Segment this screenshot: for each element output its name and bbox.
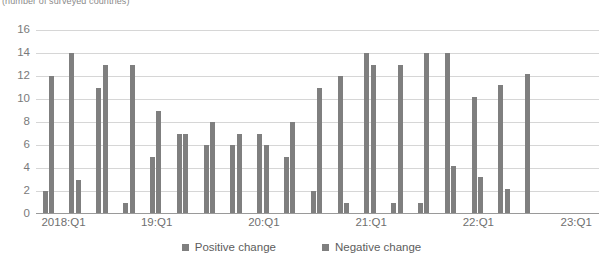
bar-positive-change [311, 191, 316, 214]
bar-negative-change [398, 65, 403, 215]
bar-positive-change [284, 157, 289, 215]
x-axis-tick-label: 22:Q1 [463, 216, 494, 228]
bar-positive-change [364, 53, 369, 214]
bar-negative-change [424, 53, 429, 214]
y-axis-tick-label: 0 [0, 208, 30, 220]
chart-root: (number of surveyed countries) 024681012… [0, 0, 603, 267]
bar-negative-change [183, 134, 188, 215]
legend-item-negative[interactable]: Negative change [322, 241, 421, 253]
bar-negative-change [290, 122, 295, 214]
bar-negative-change [156, 111, 161, 215]
bar-negative-change [451, 166, 456, 214]
bar-positive-change [525, 74, 530, 214]
bar-negative-change [130, 65, 135, 215]
chart-legend: Positive changeNegative change [0, 241, 603, 253]
legend-label: Positive change [195, 241, 276, 253]
bar-positive-change [177, 134, 182, 215]
legend-label: Negative change [335, 241, 421, 253]
bar-series-container [36, 30, 599, 214]
x-axis-tick-label: 19:Q1 [141, 216, 172, 228]
bar-positive-change [150, 157, 155, 215]
y-axis-tick-label: 14 [0, 47, 30, 59]
y-axis-labels: 0246810121416 [0, 30, 30, 214]
bar-negative-change [210, 122, 215, 214]
bar-positive-change [498, 85, 503, 214]
bar-negative-change [49, 76, 54, 214]
bar-positive-change [69, 53, 74, 214]
bar-positive-change [204, 145, 209, 214]
bar-positive-change [230, 145, 235, 214]
chart-subtitle: (number of surveyed countries) [2, 0, 130, 6]
y-axis-tick-label: 16 [0, 24, 30, 36]
x-axis-labels: 2018:Q119:Q120:Q121:Q122:Q123:Q1 [36, 216, 599, 232]
bar-negative-change [264, 145, 269, 214]
bar-negative-change [237, 134, 242, 215]
legend-swatch-icon [182, 244, 189, 251]
x-axis-tick-label: 21:Q1 [355, 216, 386, 228]
legend-swatch-icon [322, 244, 329, 251]
y-axis-tick-label: 4 [0, 162, 30, 174]
bar-negative-change [76, 180, 81, 215]
y-axis-tick-label: 8 [0, 116, 30, 128]
x-axis-tick-label: 23:Q1 [561, 216, 592, 228]
bar-negative-change [103, 65, 108, 215]
bar-positive-change [43, 191, 48, 214]
bar-positive-change [96, 88, 101, 215]
x-axis-tick-label: 20:Q1 [248, 216, 279, 228]
bar-negative-change [371, 65, 376, 215]
x-axis-line [36, 213, 599, 214]
bar-positive-change [257, 134, 262, 215]
bar-positive-change [472, 97, 477, 214]
bar-positive-change [338, 76, 343, 214]
y-axis-tick-label: 10 [0, 93, 30, 105]
y-axis-tick-label: 12 [0, 70, 30, 82]
plot-area [36, 30, 599, 214]
y-axis-tick-label: 2 [0, 185, 30, 197]
bar-negative-change [505, 189, 510, 214]
bar-positive-change [445, 53, 450, 214]
bar-negative-change [478, 177, 483, 214]
bar-negative-change [317, 88, 322, 215]
legend-item-positive[interactable]: Positive change [182, 241, 276, 253]
x-axis-tick-label: 2018:Q1 [41, 216, 85, 228]
y-axis-tick-label: 6 [0, 139, 30, 151]
